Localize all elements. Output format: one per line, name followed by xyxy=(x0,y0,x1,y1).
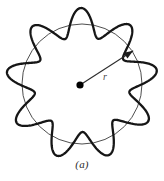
epicycloid-diagram xyxy=(0,0,164,181)
figure-caption: (a) xyxy=(0,158,164,171)
figure-container: r (a) xyxy=(0,0,164,181)
radius-label: r xyxy=(103,71,107,82)
radius-arrow-group xyxy=(76,51,133,89)
center-dot xyxy=(76,81,83,88)
